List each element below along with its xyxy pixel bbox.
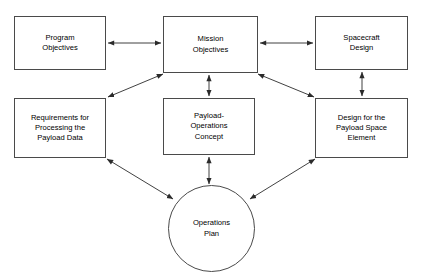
node-spacecraft-design[interactable]: Spacecraft Design [315, 16, 408, 70]
node-payload-operations-concept[interactable]: Payload- Operations Concept [163, 98, 255, 155]
node-mission-objectives[interactable]: Mission Objectives [163, 16, 258, 73]
node-design-for-the-payload-space-element[interactable]: Design for the Payload Space Element [315, 98, 408, 158]
mission-operations-flow-diagram: Program Objectives Mission Objectives Sp… [0, 0, 421, 275]
connector-design-payload-to-operations-plan [250, 159, 315, 199]
node-label: Program Objectives [40, 33, 79, 53]
node-label: Mission Objectives [191, 34, 230, 54]
node-label: Operations Plan [191, 218, 232, 238]
connector-mission-to-design-payload [258, 74, 314, 97]
node-requirements-for-processing-the-payload-data[interactable]: Requirements for Processing the Payload … [14, 98, 106, 158]
node-label: Payload- Operations Concept [188, 111, 229, 142]
node-label: Design for the Payload Space Element [334, 113, 389, 144]
node-operations-plan[interactable]: Operations Plan [168, 185, 255, 272]
node-label: Requirements for Processing the Payload … [29, 113, 91, 144]
node-label: Spacecraft Design [341, 33, 381, 53]
connector-mission-to-requirements [108, 74, 163, 97]
node-program-objectives[interactable]: Program Objectives [14, 16, 106, 70]
connector-requirements-to-operations-plan [107, 159, 173, 199]
